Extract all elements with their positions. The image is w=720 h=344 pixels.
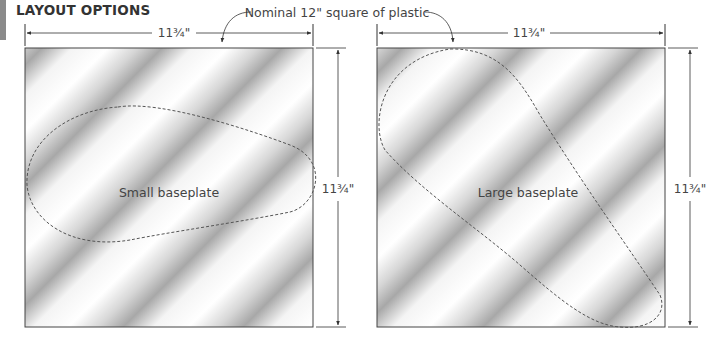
height-dimension-label-right: 11¾"	[674, 182, 706, 196]
width-dimension-label-right: 11¾"	[513, 26, 545, 40]
large-baseplate-label: Large baseplate	[478, 185, 579, 200]
plastic-callout: Nominal 12" square of plastic	[222, 5, 453, 42]
width-dimension-label-left: 11¾"	[158, 26, 190, 40]
height-dimension-label-left: 11¾"	[322, 182, 354, 196]
small-baseplate-label: Small baseplate	[119, 185, 219, 200]
small-baseplate-panel: Small baseplate 11¾" 11¾"	[25, 24, 354, 327]
callout-text: Nominal 12" square of plastic	[245, 5, 430, 20]
large-baseplate-panel: Large baseplate 11¾" 11¾"	[377, 24, 706, 327]
